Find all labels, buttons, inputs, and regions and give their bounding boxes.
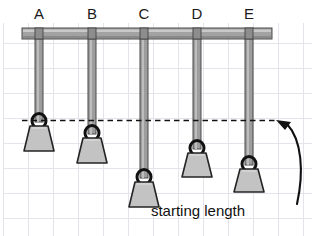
string-c bbox=[140, 30, 148, 178]
pendulum-label-d: D bbox=[192, 5, 203, 22]
string-d bbox=[193, 30, 201, 149]
string-e bbox=[245, 30, 253, 165]
pendulum-label-b: B bbox=[87, 5, 97, 22]
pendulum-label-a: A bbox=[34, 5, 44, 22]
string-b bbox=[88, 30, 96, 134]
pendulum-label-e: E bbox=[244, 5, 254, 22]
string-a bbox=[35, 30, 43, 122]
starting-length-caption: starting length bbox=[151, 202, 245, 219]
pendulum-label-c: C bbox=[139, 5, 150, 22]
diagram-canvas: A B C D E bbox=[0, 0, 318, 236]
